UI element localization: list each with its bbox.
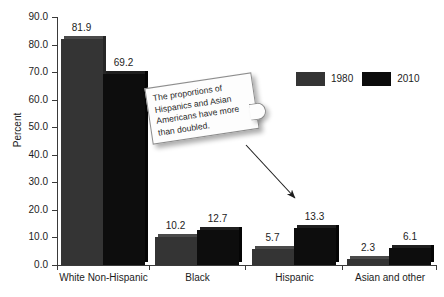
annotation-arrow-icon (0, 0, 444, 297)
bar-chart: Percent 0.010.020.030.040.050.060.070.08… (0, 0, 444, 297)
